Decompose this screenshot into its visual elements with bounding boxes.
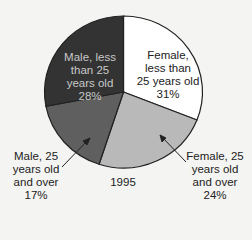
label-male-under25: Male, less than 25 years old 28% (55, 51, 125, 103)
chart-year-label: 1995 (105, 176, 141, 189)
label-male-over25: Male, 25 years old and over 17% (4, 150, 68, 202)
label-female-under25: Female, less than 25 years old 31% (128, 49, 208, 101)
label-female-over25: Female, 25 years old and over 24% (180, 150, 250, 202)
